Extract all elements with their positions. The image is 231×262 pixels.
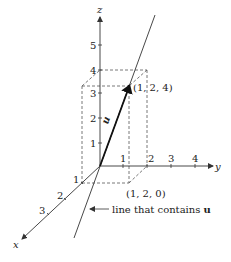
- z-tick-4: 4: [90, 65, 96, 76]
- point-top-label: (1, 2, 4): [133, 82, 173, 93]
- y-tick-3: 3: [168, 153, 174, 164]
- vector-u-label: u: [99, 115, 112, 126]
- point-top-marker: [128, 85, 130, 87]
- y-tick-1: 1: [120, 153, 126, 164]
- z-tick-labels: 1 2 3 4 5: [90, 40, 96, 149]
- x-axis: [22, 166, 100, 239]
- y-tick-4: 4: [192, 153, 198, 164]
- y-axis-label: y: [214, 161, 221, 172]
- point-base-label: (1, 2, 0): [126, 188, 166, 199]
- x-tick-2: 2: [57, 190, 63, 201]
- y-tick-labels: 1 2 3 4: [120, 153, 198, 164]
- z-tick-5: 5: [90, 40, 96, 51]
- 3d-vector-diagram: 1 2 3 4 5 1 2 3 4 1 2 3 z y x u (1, 2, 4…: [0, 0, 231, 262]
- z-tick-3: 3: [90, 88, 96, 99]
- annotation-label: line that contains u: [112, 204, 211, 215]
- x-tick-1: 1: [73, 174, 79, 185]
- x-tick-3: 3: [39, 205, 45, 216]
- z-axis-label: z: [96, 4, 103, 15]
- z-tick-1: 1: [90, 138, 96, 149]
- x-tick-labels: 1 2 3: [39, 174, 79, 216]
- z-tick-2: 2: [90, 113, 96, 124]
- tick-marks: [47, 45, 195, 215]
- y-tick-2: 2: [148, 153, 154, 164]
- x-axis-label: x: [13, 239, 19, 250]
